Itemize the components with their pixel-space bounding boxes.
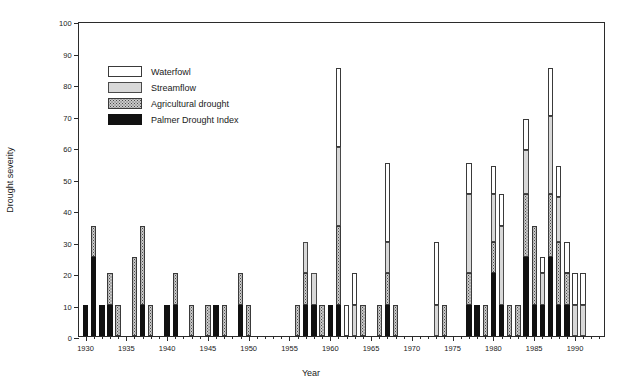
bar-1957 [303, 242, 308, 337]
x-tick-1974 [444, 336, 445, 339]
x-tick-1947 [224, 336, 225, 339]
bar-segment-palmer [213, 305, 218, 337]
bar-segment-water [344, 305, 349, 337]
bar-1962 [344, 305, 349, 337]
y-tick-label-90: 90 [63, 50, 72, 59]
y-tick-label-50: 50 [63, 176, 72, 185]
bar-1936 [132, 257, 137, 336]
bar-segment-agri [466, 273, 471, 305]
x-tick-1952 [265, 336, 266, 339]
y-tick-100 [74, 23, 79, 24]
bar-segment-palmer [99, 305, 104, 337]
bar-1964 [360, 305, 365, 337]
x-tick-1941 [175, 336, 176, 339]
x-tick-1988 [559, 336, 560, 339]
x-tick-1964 [363, 336, 364, 339]
bar-segment-stream [336, 147, 341, 226]
bar-segment-water [523, 119, 528, 151]
bar-segment-agri [360, 305, 365, 337]
bar-segment-palmer [491, 273, 496, 336]
bar-segment-agri [564, 273, 569, 305]
legend-item-water: Waterfowl [108, 66, 239, 77]
bar-segment-agri [238, 273, 243, 305]
bar-segment-stream [548, 116, 553, 195]
bar-segment-agri [483, 305, 488, 337]
x-tick-1966 [379, 336, 380, 339]
legend-item-palmer: Palmer Drought Index [108, 114, 239, 125]
legend-label-water: Waterfowl [151, 67, 191, 77]
x-tick-1957 [306, 336, 307, 339]
legend-item-stream: Streamflow [108, 82, 239, 93]
bar-segment-stream [303, 242, 308, 274]
bar-segment-palmer [499, 305, 504, 337]
bar-segment-agri [173, 273, 178, 305]
bar-segment-stream [352, 305, 357, 337]
legend-swatch-stream [108, 82, 142, 93]
y-tick-label-80: 80 [63, 82, 72, 91]
x-tick-1965 [371, 336, 372, 341]
x-tick-1943 [192, 336, 193, 339]
bar-1977 [466, 163, 471, 336]
x-tick-label-1970: 1970 [403, 344, 420, 353]
bar-1930 [83, 305, 88, 337]
y-tick-20 [74, 275, 79, 276]
bar-segment-stream [491, 194, 496, 241]
x-tick-1984 [526, 336, 527, 339]
x-tick-label-1975: 1975 [444, 344, 461, 353]
bar-1987 [548, 68, 553, 336]
x-tick-1968 [396, 336, 397, 339]
bar-1959 [319, 305, 324, 337]
x-tick-label-1930: 1930 [77, 344, 94, 353]
y-tick-label-100: 100 [59, 19, 72, 28]
x-tick-1932 [102, 336, 103, 339]
x-tick-1954 [281, 336, 282, 339]
bar-1973 [434, 242, 439, 337]
bar-segment-agri [107, 273, 112, 305]
bar-segment-agri [393, 305, 398, 337]
bar-segment-water [336, 68, 341, 147]
bar-1979 [483, 305, 488, 337]
bar-1986 [540, 257, 545, 336]
x-tick-1959 [322, 336, 323, 339]
bar-1946 [213, 305, 218, 337]
bar-1963 [352, 273, 357, 336]
bar-1938 [148, 305, 153, 337]
x-tick-label-1960: 1960 [322, 344, 339, 353]
bar-1932 [99, 305, 104, 337]
bar-segment-water [466, 163, 471, 195]
bar-segment-agri [377, 305, 382, 337]
bar-segment-stream [540, 273, 545, 305]
bar-segment-agri [491, 242, 496, 274]
bar-segment-water [580, 273, 585, 305]
bar-1991 [580, 273, 585, 336]
x-tick-1980 [493, 336, 494, 341]
bar-1990 [572, 273, 577, 336]
x-tick-1950 [249, 336, 250, 341]
bar-segment-stream [311, 273, 316, 305]
y-axis-title: Drought severity [5, 147, 15, 213]
x-tick-1936 [134, 336, 135, 339]
bar-segment-stream [434, 305, 439, 337]
x-tick-label-1950: 1950 [240, 344, 257, 353]
x-tick-1931 [94, 336, 95, 339]
x-tick-label-1955: 1955 [281, 344, 298, 353]
bar-segment-water [556, 166, 561, 198]
bar-segment-agri [303, 273, 308, 305]
x-tick-1960 [330, 336, 331, 341]
bar-segment-agri [115, 305, 120, 337]
y-tick-label-60: 60 [63, 145, 72, 154]
bar-1958 [311, 273, 316, 336]
bar-segment-water [385, 163, 390, 242]
bar-segment-palmer [474, 305, 479, 337]
bar-segment-agri [385, 273, 390, 305]
x-tick-1935 [126, 336, 127, 341]
bar-segment-palmer [107, 305, 112, 337]
bar-1933 [107, 273, 112, 336]
bar-segment-palmer [385, 305, 390, 337]
drought-severity-chart: Drought severity Year 010203040506070809… [0, 0, 622, 392]
bar-1931 [91, 226, 96, 336]
bar-segment-stream [499, 226, 504, 305]
bar-segment-stream [556, 197, 561, 241]
y-tick-50 [74, 181, 79, 182]
bar-segment-stream [523, 150, 528, 194]
